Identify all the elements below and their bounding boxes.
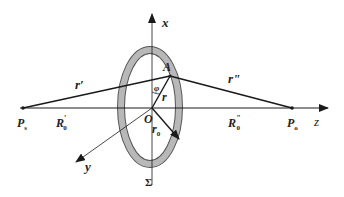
label-Po: Po (287, 116, 298, 132)
label-sigma: Σ (145, 176, 152, 188)
label-R0-double-prime: R"0 (227, 114, 240, 132)
label-y: y (83, 159, 91, 174)
point-Po (290, 106, 294, 110)
label-z: z (313, 114, 319, 129)
label-Ps: Ps (17, 116, 27, 132)
y-axis (76, 108, 152, 162)
point-Ps (21, 106, 25, 110)
label-R0-prime: R′0 (55, 114, 67, 132)
ray-r-prime (23, 76, 170, 108)
label-r-prime: r′ (75, 77, 84, 92)
label-r: r (162, 90, 167, 104)
label-r-double-prime: r" (228, 71, 240, 86)
label-r0: r0 (152, 122, 161, 138)
label-A: A (162, 60, 171, 74)
aperture-diagram: x A r′ r" φ r O r0 Ps R′0 R"0 Po z y Σ (0, 0, 344, 197)
label-phi: φ (154, 83, 159, 93)
point-A (169, 75, 172, 78)
label-x: x (161, 15, 169, 30)
